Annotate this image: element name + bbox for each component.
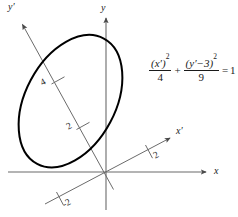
ellipse-curve: [0, 17, 144, 185]
diagram-canvas: [0, 0, 238, 217]
equation-term-2-numerator: (y′−3)2: [184, 58, 219, 70]
equation-term-2-num-base: (y′−3): [186, 57, 214, 69]
equation-term-1-numerator: (x′)2: [149, 58, 171, 70]
y-axis-label: y: [101, 3, 105, 13]
math-figure: x y x′ y′ 4 2 2 -2 (x′)2 4 + (y′−3)2 9 =…: [0, 0, 238, 217]
equation-term-1-denominator: 4: [155, 71, 165, 83]
equation-term-1-num-base: (x′): [151, 57, 166, 69]
ellipse-path: [0, 17, 144, 185]
x-prime-axis-label: x′: [176, 126, 183, 136]
y-prime-axis-label: y′: [8, 2, 15, 12]
equation-equals-sign: =: [220, 65, 230, 76]
equation-term-2-num-exponent: 2: [213, 52, 217, 61]
equation-term-1-num-exponent: 2: [166, 52, 170, 61]
ellipse-equation: (x′)2 4 + (y′−3)2 9 = 1: [148, 58, 236, 83]
equation-plus-operator: +: [172, 65, 182, 76]
x-axis-label: x: [214, 166, 218, 176]
equation-right-hand-side: 1: [230, 65, 236, 76]
equation-term-2: (y′−3)2 9: [184, 58, 219, 83]
equation-term-2-denominator: 9: [196, 71, 206, 83]
equation-term-1: (x′)2 4: [149, 58, 171, 83]
x-prime-axis-line: [45, 138, 170, 204]
